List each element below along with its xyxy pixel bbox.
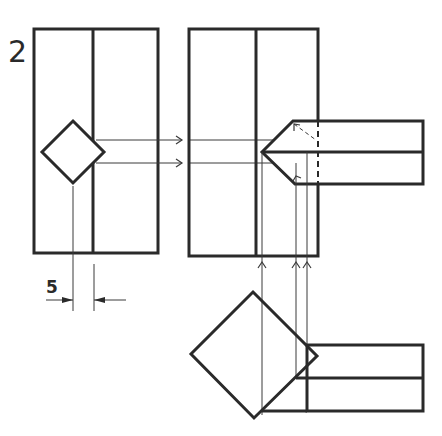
front-view-diamond — [42, 121, 104, 183]
figure-number: 2 — [8, 34, 27, 69]
front-view — [34, 29, 158, 253]
side-view — [189, 29, 423, 256]
vertical-projection-lines — [258, 152, 311, 415]
dimension-arrow-icon — [62, 297, 73, 303]
dimension-arrow-icon — [94, 297, 105, 303]
top-view-diamond — [191, 292, 317, 418]
dimension-5: 5 — [46, 186, 126, 311]
dimension-label: 5 — [46, 277, 58, 297]
technical-drawing: 2 5 — [0, 0, 442, 436]
